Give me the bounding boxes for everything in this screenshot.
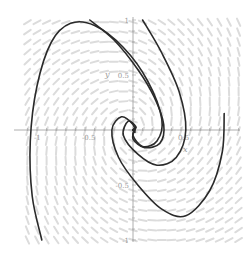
field-arrow — [218, 29, 222, 36]
field-arrow — [227, 28, 230, 35]
field-arrow — [177, 199, 184, 202]
field-arrow — [44, 98, 48, 105]
field-arrow — [73, 108, 77, 115]
field-arrow — [92, 197, 97, 203]
field-arrow — [110, 91, 118, 93]
field-arrow — [139, 239, 147, 241]
field-arrow — [45, 217, 48, 224]
field-arrow — [235, 228, 242, 232]
field-arrow — [177, 209, 185, 211]
field-arrow — [208, 19, 212, 26]
field-arrow — [27, 187, 28, 195]
field-arrow — [149, 60, 156, 65]
x-tick-label: -1 — [34, 134, 41, 142]
field-arrow — [34, 69, 40, 75]
field-arrow — [238, 48, 240, 56]
field-arrow — [148, 180, 156, 181]
field-arrow — [168, 20, 174, 25]
field-arrow — [72, 50, 79, 53]
field-arrow — [62, 40, 69, 43]
field-arrow — [84, 167, 87, 175]
field-arrow — [139, 229, 147, 231]
field-arrow — [169, 148, 174, 154]
field-arrow — [92, 108, 97, 114]
field-arrow — [91, 41, 99, 42]
field-arrow — [158, 169, 165, 172]
field-arrow — [26, 117, 29, 124]
field-arrow — [179, 49, 184, 55]
field-arrow — [75, 157, 76, 165]
field-arrow — [197, 168, 203, 174]
field-arrow — [54, 98, 59, 105]
field-arrow — [188, 168, 194, 173]
field-arrow — [26, 206, 28, 214]
field-arrow — [139, 40, 146, 43]
field-arrow — [158, 179, 166, 181]
field-arrow — [101, 218, 107, 223]
field-arrow — [177, 189, 184, 192]
field-arrow — [237, 147, 241, 154]
field-arrow — [188, 148, 193, 155]
field-arrow — [178, 19, 184, 25]
field-arrow — [141, 117, 144, 124]
field-arrow — [189, 137, 193, 144]
field-arrow — [110, 228, 117, 232]
field-arrow — [198, 158, 203, 164]
field-arrow — [188, 49, 192, 56]
field-arrow — [54, 207, 57, 214]
field-arrow — [119, 81, 127, 82]
field-arrow — [92, 187, 97, 193]
field-arrow — [34, 30, 41, 34]
field-arrow — [101, 198, 107, 203]
field-arrow — [158, 20, 165, 24]
field-arrow — [24, 40, 30, 45]
field-arrow — [216, 228, 223, 232]
field-arrow — [190, 117, 191, 125]
field-arrow — [227, 168, 232, 174]
field-arrow — [35, 108, 39, 115]
field-arrow — [139, 89, 146, 93]
field-arrow — [238, 68, 239, 76]
field-arrow — [73, 237, 78, 243]
field-arrow — [73, 227, 78, 233]
field-arrow — [64, 207, 68, 214]
field-arrow — [218, 38, 221, 45]
field-arrow — [208, 147, 212, 154]
field-arrow — [206, 208, 213, 212]
field-arrow — [91, 237, 97, 242]
field-arrow — [226, 208, 232, 213]
field-arrow — [101, 99, 108, 103]
field-arrow — [36, 187, 38, 195]
field-arrow — [111, 158, 116, 164]
field-arrow — [218, 68, 220, 76]
field-arrow — [74, 187, 77, 194]
field-arrow — [63, 227, 68, 234]
field-arrow — [63, 79, 69, 84]
field-arrow — [83, 118, 87, 125]
field-arrow — [81, 70, 88, 74]
field-arrow — [110, 22, 118, 23]
field-arrow — [54, 237, 59, 244]
y-axis-label: y — [104, 70, 110, 79]
field-arrow — [53, 40, 60, 44]
field-arrow — [227, 137, 230, 144]
field-arrow — [209, 78, 211, 86]
field-arrow — [198, 48, 202, 55]
field-arrow — [206, 228, 213, 231]
field-arrow — [169, 78, 173, 85]
field-arrow — [168, 169, 175, 173]
field-arrow — [46, 177, 47, 185]
field-arrow — [110, 238, 117, 242]
field-arrow — [209, 107, 210, 115]
field-arrow — [24, 20, 31, 24]
field-arrow — [45, 227, 49, 234]
field-arrow — [149, 69, 155, 74]
field-arrow — [25, 69, 30, 75]
field-arrow — [72, 89, 78, 94]
field-arrow — [237, 157, 241, 164]
field-arrow — [46, 137, 47, 145]
field-arrow — [228, 117, 230, 125]
field-arrow — [110, 208, 117, 212]
field-arrow — [237, 19, 240, 26]
y-tick-label: -0.5 — [116, 182, 130, 190]
